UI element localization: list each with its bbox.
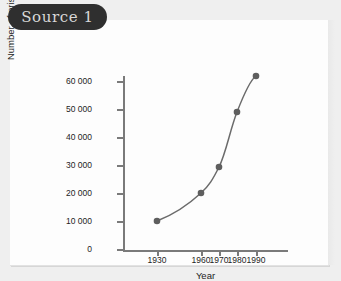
data-point-1930 xyxy=(154,218,161,225)
plot-area xyxy=(10,20,328,265)
data-point-1970 xyxy=(216,164,223,171)
data-point-1980 xyxy=(234,109,241,116)
source-badge: Source 1 xyxy=(8,4,107,30)
series-line-prisoners xyxy=(157,76,256,221)
x-axis-title: Year xyxy=(123,270,288,281)
page-edge xyxy=(328,20,335,265)
prisoners-line-chart: 0 10 000 20 000 30 000 40 000 50 000 60 … xyxy=(10,20,328,265)
data-point-1960 xyxy=(198,190,205,197)
source-badge-label: Source 1 xyxy=(21,10,94,25)
data-point-1990 xyxy=(253,73,260,80)
